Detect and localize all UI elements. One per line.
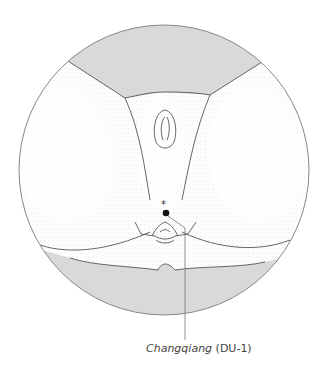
- circular-view: [0, 0, 319, 384]
- anatomy-diagram: *: [0, 0, 319, 384]
- point-name: Changqiang: [146, 342, 212, 355]
- point-label: Changqiang (DU-1): [146, 342, 252, 355]
- coccyx-marker-icon: *: [161, 199, 166, 210]
- point-code: (DU-1): [216, 342, 252, 355]
- acupoint-marker: [163, 210, 170, 217]
